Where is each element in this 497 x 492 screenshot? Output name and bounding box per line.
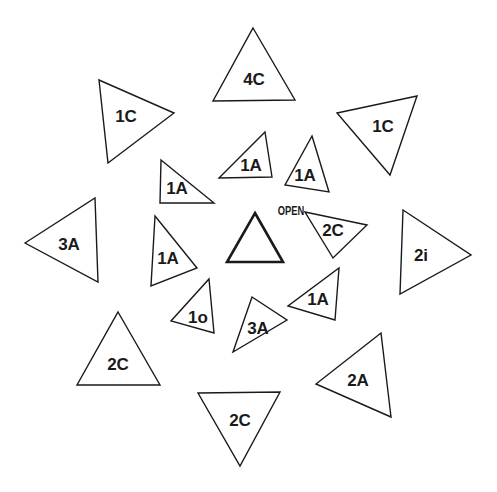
- triangle-3a: 3A: [233, 297, 287, 352]
- triangle-4c: 4C: [213, 28, 295, 101]
- triangle-3a: 3A: [25, 198, 98, 282]
- triangle-label: 2C: [229, 411, 251, 430]
- triangle-shape: [227, 213, 283, 262]
- triangle-1a: 1A: [151, 216, 197, 286]
- triangle-1a: 1A: [160, 160, 214, 203]
- triangle-1a: 1A: [219, 132, 272, 178]
- triangle-shape: [77, 312, 160, 385]
- triangle-label: 1A: [240, 156, 262, 175]
- triangle-2c: 2C: [77, 312, 160, 385]
- triangle-label: 2C: [322, 221, 344, 240]
- triangle-label: 1o: [188, 308, 208, 327]
- triangle-1c: 1C: [99, 80, 174, 163]
- triangle-label: 3A: [247, 319, 269, 338]
- triangle-label: 3A: [58, 235, 80, 254]
- triangle-label: 2A: [347, 371, 369, 390]
- triangle-label: 1C: [115, 107, 137, 126]
- triangle-label: 1A: [294, 166, 316, 185]
- triangle-2i: 2i: [400, 210, 471, 294]
- triangle-2a: 2A: [316, 333, 391, 417]
- triangle-1o: 1o: [171, 279, 214, 333]
- triangle-diagram: 4C1C1C1A1A1A3A1A2C2i1o3A1A2C2A2COPEN: [0, 0, 497, 492]
- triangle-2c: 2C: [305, 212, 367, 258]
- triangle-label: 1A: [166, 179, 188, 198]
- triangle-2c: 2C: [198, 392, 280, 466]
- triangle-1a: 1A: [288, 268, 339, 320]
- diagram-canvas: 4C1C1C1A1A1A3A1A2C2i1o3A1A2C2A2COPEN: [0, 0, 497, 492]
- triangle-label: 2C: [107, 355, 129, 374]
- triangle-label: 2i: [414, 246, 428, 265]
- triangle-label: OPEN: [278, 204, 304, 218]
- triangle-1a: 1A: [285, 136, 329, 192]
- triangle-label: 1A: [157, 249, 179, 268]
- triangle-shape: [400, 210, 471, 294]
- triangle-label: 1A: [307, 290, 329, 309]
- triangle-label: 4C: [243, 70, 265, 89]
- triangle-1c: 1C: [337, 96, 417, 175]
- triangle-shape: [337, 96, 417, 175]
- triangle-label: 1C: [372, 117, 394, 136]
- triangle-shape: [213, 28, 295, 101]
- center-open-triangle: OPEN: [227, 204, 304, 262]
